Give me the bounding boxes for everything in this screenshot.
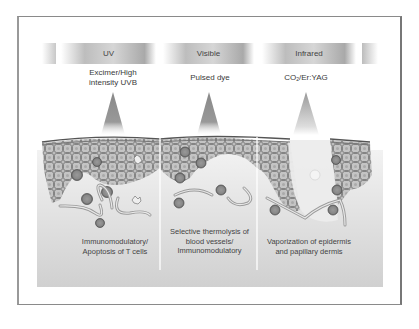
effect-caption-line: Apoptosis of T cells — [70, 247, 160, 257]
effect-caption-line: Selective thermolysis of — [162, 227, 257, 237]
effect-caption-line: Vaporization of epidermis — [259, 237, 359, 247]
effect-caption-line: and papillary dermis — [259, 247, 359, 257]
effect-caption-line: Immunomodulatory/ — [70, 237, 160, 247]
effect-caption-infrared: Vaporization of epidermis and papillary … — [259, 237, 359, 256]
beam-cone-visible — [197, 92, 221, 135]
beam-cone-infrared — [293, 92, 319, 135]
effect-caption-line: Immunomodulatory — [162, 246, 257, 256]
effect-caption-uv: Immunomodulatory/ Apoptosis of T cells — [70, 237, 160, 256]
effect-caption-visible: Selective thermolysis of blood vessels/ … — [162, 227, 257, 256]
effect-caption-line: blood vessels/ — [162, 237, 257, 247]
skin-illustration — [0, 0, 419, 329]
beam-cone-uv — [101, 92, 125, 135]
